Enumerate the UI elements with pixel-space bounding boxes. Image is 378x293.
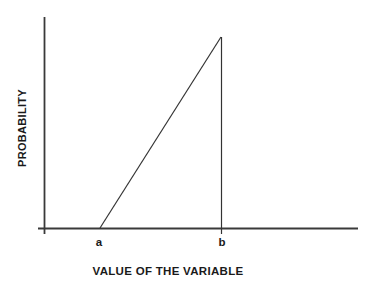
probability-distribution-figure: a b PROBABILITY VALUE OF THE VARIABLE <box>0 0 378 293</box>
x-axis-title: VALUE OF THE VARIABLE <box>93 265 244 277</box>
plot-area <box>0 0 378 293</box>
x-tick-label-b: b <box>218 236 225 248</box>
x-tick-label-a: a <box>96 236 102 248</box>
density-rising-edge <box>100 37 221 228</box>
y-axis-title: PROBABILITY <box>16 89 28 167</box>
